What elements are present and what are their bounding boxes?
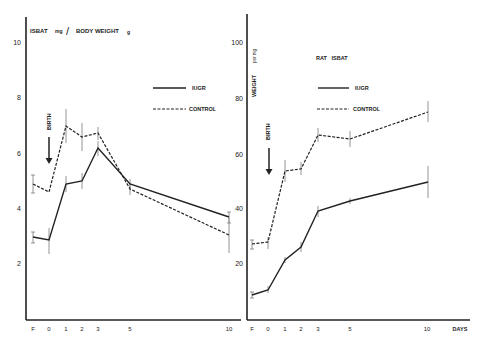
left-xtick-2: 2 [80,326,84,332]
left-ytick-10: 10 [13,39,21,46]
left-xtick-0: 0 [47,326,51,332]
left-legend-control: CONTROL [189,106,217,112]
right-series-control [252,112,428,244]
arrow-down-icon [266,169,273,175]
right-title: RAT ISBAT [316,55,348,61]
right-ytick-100: 100 [231,39,243,46]
left-ylabel-slash: / [66,25,70,37]
left-ylabel-isbat: ISBAT [30,28,48,34]
right-ytick-60: 60 [235,151,243,158]
arrow-down-icon [46,158,53,164]
right-xtick-2: 2 [299,326,303,332]
left-series-control [33,126,229,235]
right-xtick-f: F [250,326,254,332]
right-birth-label: BIRTH [265,123,271,140]
right-legend: IUGR CONTROL [317,85,381,112]
right-ylabel: WEIGHT [251,74,257,97]
right-xunit-days: DAYS [453,326,468,332]
left-ylabel-unit-mg: mg [55,28,63,34]
left-ytick-4: 4 [17,205,21,212]
right-ylabel-unit: per mg [252,48,257,63]
right-x-ticks: F 0 1 2 3 5 10 DAYS [250,326,468,332]
left-xtick-3: 3 [96,326,100,332]
left-ytick-2: 2 [17,260,21,267]
left-xtick-10: 10 [226,326,233,332]
right-ytick-20: 20 [235,260,243,267]
right-xtick-1: 1 [283,326,287,332]
left-error-bars [31,109,231,254]
right-xtick-5: 5 [348,326,352,332]
left-ylabel-unit-g: g [127,29,130,35]
right-ytick-80: 80 [235,95,243,102]
right-chart: WEIGHT per mg RAT ISBAT 100 80 60 40 20 … [231,14,470,332]
left-birth-label: BIRTH [46,113,52,130]
right-xtick-10: 10 [424,326,431,332]
left-xtick-5: 5 [128,326,132,332]
right-legend-control: CONTROL [353,106,381,112]
figure: ISBAT mg / BODY WEIGHT g 10 8 6 4 2 F 0 … [0,0,484,341]
right-birth-annotation: BIRTH [265,123,273,175]
left-xtick-f: F [31,326,35,332]
right-xtick-3: 3 [316,326,320,332]
left-y-ticks: 10 8 6 4 2 [13,39,21,267]
right-y-ticks: 100 80 60 40 20 [231,39,243,267]
left-legend: IUGR CONTROL [153,85,217,112]
left-chart: ISBAT mg / BODY WEIGHT g 10 8 6 4 2 F 0 … [13,17,241,332]
left-ytick-6: 6 [17,150,21,157]
left-x-ticks: F 0 1 2 3 5 10 [31,326,233,332]
left-ylabel-bodyweight: BODY WEIGHT [76,28,119,34]
right-ytick-40: 40 [235,205,243,212]
right-xtick-0: 0 [266,326,270,332]
left-ytick-8: 8 [17,94,21,101]
left-xtick-1: 1 [64,326,68,332]
right-legend-iugr: IUGR [355,85,369,91]
left-birth-annotation: BIRTH [46,113,53,164]
left-series-iugr [33,148,229,240]
left-legend-iugr: IUGR [192,85,206,91]
right-error-bars [250,101,428,298]
